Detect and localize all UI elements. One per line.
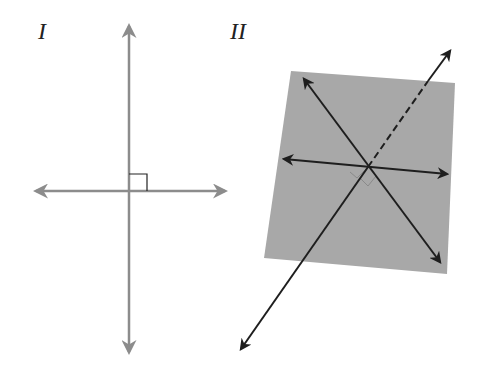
figure-i (36, 26, 225, 352)
diagram-canvas (0, 0, 480, 373)
right-angle-mark (129, 174, 147, 191)
figure-ii (241, 51, 455, 349)
perpendicular-line-upper (428, 51, 450, 81)
